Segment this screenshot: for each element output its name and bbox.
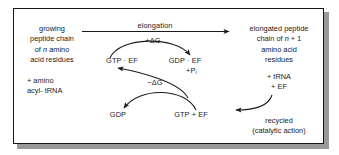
- left-line-3: of n amino: [22, 45, 82, 55]
- inorganic-phosphate-label: +Pi: [186, 66, 197, 77]
- right-line-4: residues: [236, 55, 322, 65]
- minus-delta-g-label: −ΔG: [147, 78, 162, 87]
- right-products-block: + tRNA + EF: [236, 72, 322, 93]
- right-product-block: elongated peptide chain of n + 1 amino a…: [236, 24, 322, 66]
- left-reactants-block: + amino acyl- tRNA: [27, 76, 62, 97]
- ef-line: + EF: [236, 82, 322, 92]
- plus-delta-g-label: +ΔG: [145, 36, 160, 45]
- right-line-3: amino acid: [236, 45, 322, 55]
- recycled-line-1: recycled: [236, 116, 322, 126]
- acyl-trna-line: acyl- tRNA: [27, 86, 62, 96]
- gdp-label: GDP: [110, 110, 126, 119]
- gtp-ef-label: GTP · EF: [106, 56, 138, 65]
- left-substrate-block: growing peptide chain of n amino acid re…: [22, 24, 82, 66]
- right-line-1: elongated peptide: [236, 24, 322, 34]
- recycled-note: recycled (catalytic action): [236, 116, 322, 137]
- gdp-ef-label: GDP · EF: [169, 56, 202, 65]
- elongation-label: elongation: [137, 21, 172, 30]
- right-line-2: chain of n + 1: [236, 34, 322, 44]
- left-line-4: acid residues: [22, 55, 82, 65]
- left-line-1: growing: [22, 24, 82, 34]
- elongation-cycle-figure: growing peptide chain of n amino acid re…: [0, 0, 339, 155]
- phosphate-subscript: i: [195, 69, 196, 75]
- left-line-2: peptide chain: [22, 34, 82, 44]
- recycle-arc: [236, 95, 272, 110]
- trna-line: + tRNA: [236, 72, 322, 82]
- gtp-plus-ef-label: GTP + EF: [174, 110, 208, 119]
- gdp-release-arc: [124, 92, 196, 110]
- amino-line: + amino: [27, 76, 62, 86]
- recycled-line-2: (catalytic action): [236, 126, 322, 136]
